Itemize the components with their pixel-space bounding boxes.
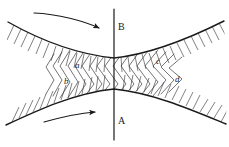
label-region-d: d — [175, 75, 180, 84]
upper-boundary-curve — [8, 21, 224, 58]
label-region-b: b — [64, 77, 69, 86]
lower-boundary-curve — [6, 89, 226, 125]
diagram-canvas — [0, 0, 229, 147]
label-lower-side-a: A — [118, 116, 125, 126]
upper-flow-arrow — [34, 13, 99, 28]
label-region-c: c — [156, 57, 160, 66]
hatching-lower-left — [12, 75, 105, 122]
label-region-a: a — [75, 61, 80, 70]
label-upper-side-b: B — [118, 22, 125, 32]
figure-root: B A a b c d — [0, 0, 229, 147]
lower-flow-arrow — [44, 112, 95, 122]
